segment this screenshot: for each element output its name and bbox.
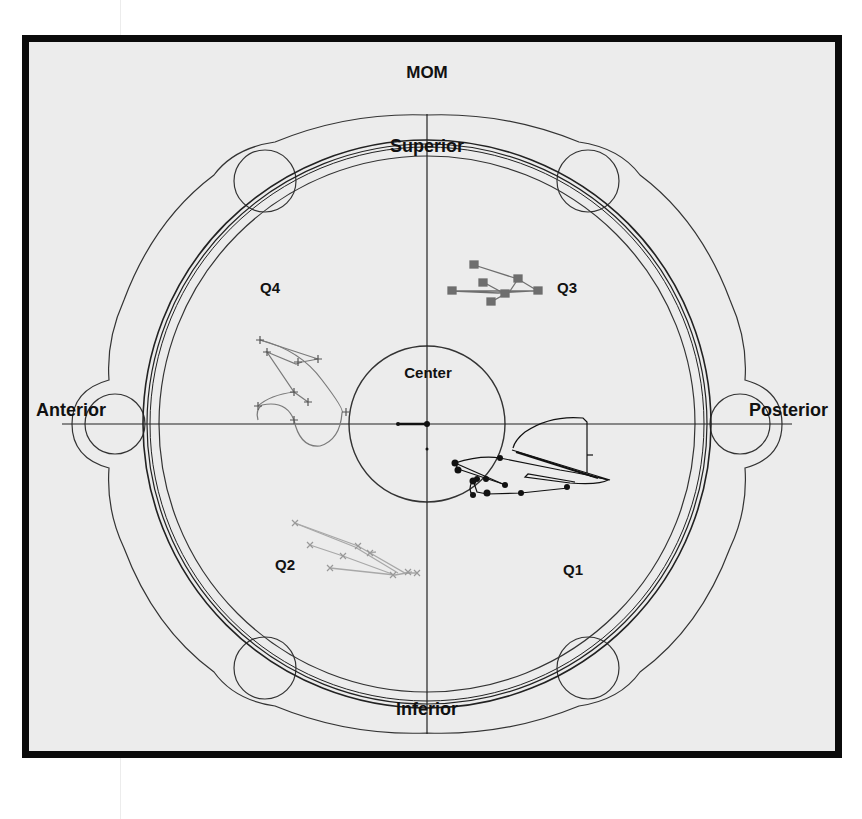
label-inferior: Inferior xyxy=(396,699,458,719)
label-center: Center xyxy=(404,364,452,381)
bolt-hole-bottom-right xyxy=(557,637,619,699)
label-superior: Superior xyxy=(390,136,464,156)
center-lower-marker xyxy=(426,448,429,451)
q2-trace xyxy=(292,520,420,578)
center-offset-marker xyxy=(396,422,400,426)
diagram-title: MOM xyxy=(406,63,448,82)
label-anterior: Anterior xyxy=(36,400,106,420)
bolt-hole-bottom-left xyxy=(234,637,296,699)
label-q3: Q3 xyxy=(557,279,577,296)
q1-trace xyxy=(452,418,611,498)
label-q2: Q2 xyxy=(275,556,295,573)
q4-trace xyxy=(254,336,350,446)
q3-trace xyxy=(448,261,542,305)
label-posterior: Posterior xyxy=(749,400,828,420)
acetabular-cup-diagram: MOM Superior Inferior Anterior Posterior… xyxy=(0,0,862,819)
label-q4: Q4 xyxy=(260,279,281,296)
center-point-marker xyxy=(424,421,430,427)
label-q1: Q1 xyxy=(563,561,583,578)
